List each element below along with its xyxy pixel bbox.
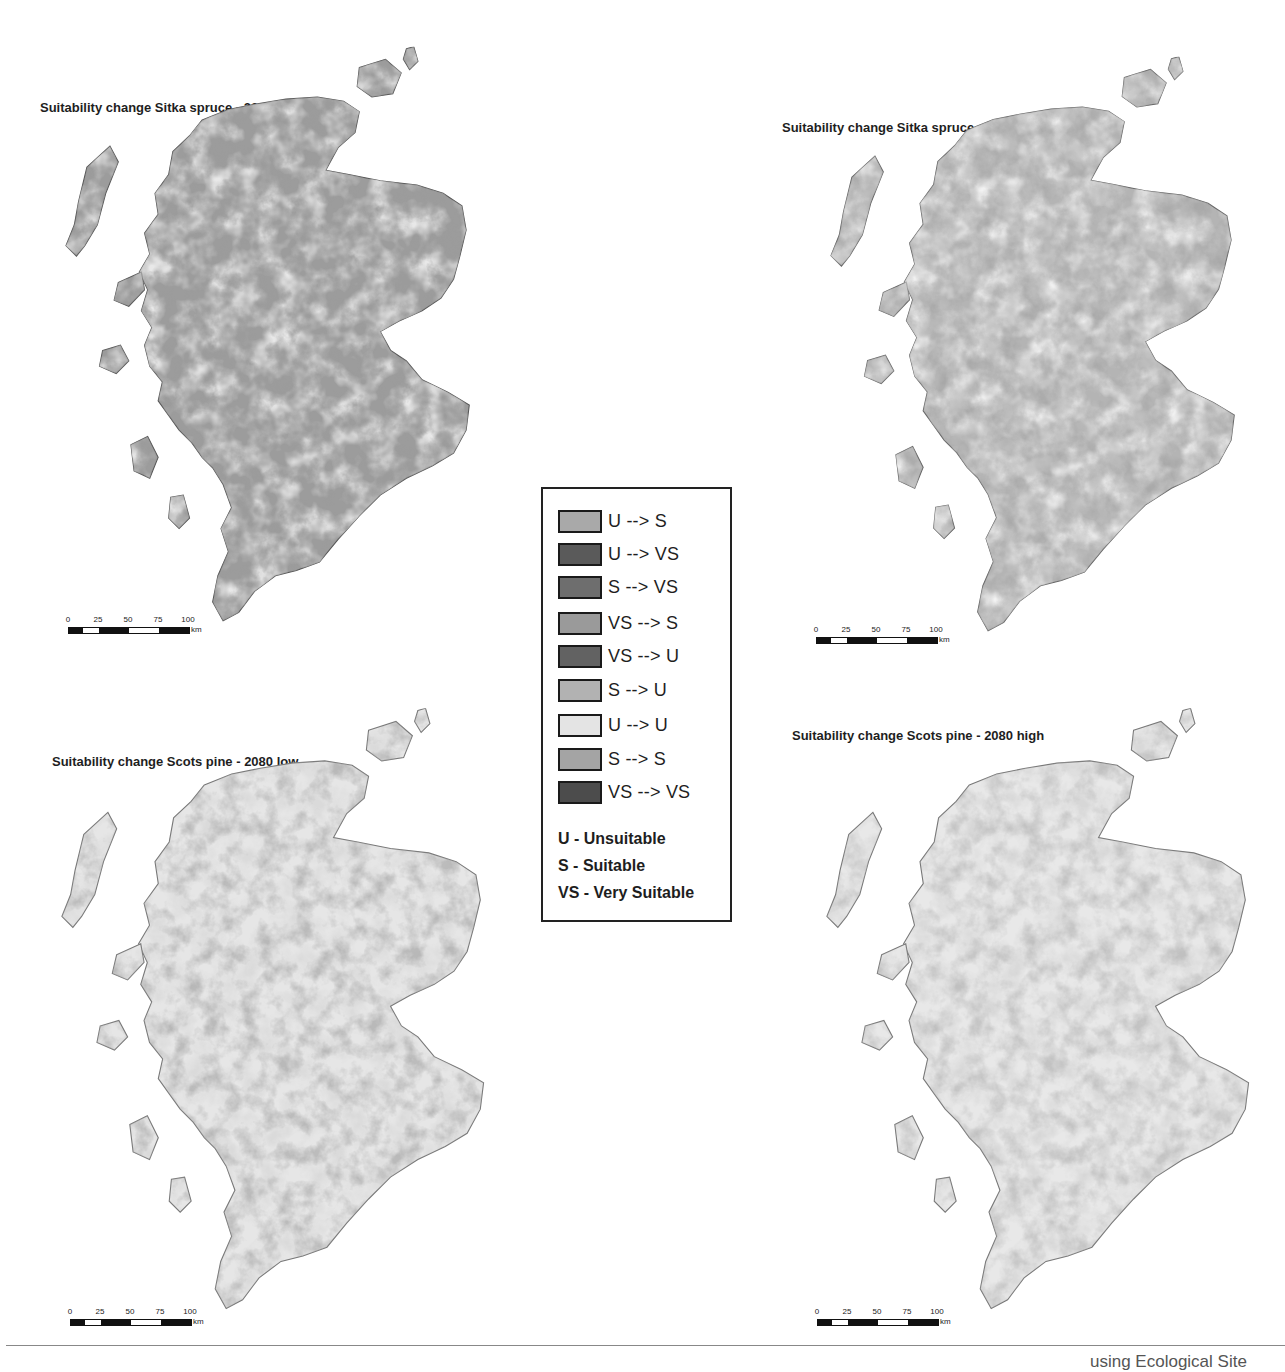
legend-swatch [558,714,602,737]
legend-label: S --> S [608,749,666,770]
legend-label: VS --> S [608,613,678,634]
scale-tick: 25 [94,615,103,624]
legend-swatch [558,748,602,771]
scotland-map [810,40,1250,660]
map-panel-scots-high: Suitability change Scots pine - 2080 hig… [770,690,1285,1340]
legend-label: U --> VS [608,544,679,565]
scotland-map [40,700,500,1330]
abbreviation-unsuitable: U - Unsuitable [558,830,666,848]
legend-label: S --> U [608,680,667,701]
legend-item: VS --> S [558,611,678,635]
map-panel-sitka-low: Suitability change Sitka spruce - 2080 l… [0,0,520,680]
legend-item: S --> U [558,678,667,702]
map-panel-scots-low: Suitability change Scots pine - 2080 low… [0,690,520,1340]
legend-item: U --> S [558,509,667,533]
map-panel-sitka-high: Suitability change Sitka spruce - 2080 h… [760,0,1285,680]
scale-tick: 50 [124,615,133,624]
scale-tick: 25 [843,1307,852,1316]
scale-tick: 75 [902,625,911,634]
scale-bar: 0 25 50 75 100 km [70,1307,210,1335]
scale-tick: 25 [96,1307,105,1316]
scale-tick: 50 [126,1307,135,1316]
caption-text: using Ecological Site [1090,1352,1247,1371]
scale-tick: 100 [929,625,942,634]
legend-item: S --> S [558,747,666,771]
legend-swatch [558,612,602,635]
legend-swatch [558,781,602,804]
legend-item: U --> VS [558,542,679,566]
legend-swatch [558,679,602,702]
scotland-map [45,40,485,640]
scale-unit: km [939,635,950,644]
scotland-map [805,700,1265,1330]
legend-item: VS --> U [558,644,679,668]
scale-unit: km [940,1317,951,1326]
scale-tick: 100 [181,615,194,624]
legend-label: U --> S [608,511,667,532]
scale-tick: 75 [156,1307,165,1316]
legend-label: VS --> U [608,646,679,667]
legend-label: VS --> VS [608,782,690,803]
scale-tick: 75 [154,615,163,624]
legend-item: S --> VS [558,575,678,599]
figure-caption: using Ecological Site [1090,1352,1247,1372]
scale-tick: 0 [68,1307,72,1316]
legend-swatch [558,576,602,599]
scale-tick: 100 [930,1307,943,1316]
legend-swatch [558,645,602,668]
legend-item: VS --> VS [558,780,690,804]
scale-tick: 75 [903,1307,912,1316]
scale-bar: 0 25 50 75 100 km [68,615,208,643]
scale-tick: 0 [815,1307,819,1316]
scale-bar: 0 25 50 75 100 km [816,625,956,653]
scale-unit: km [191,625,202,634]
scale-tick: 0 [66,615,70,624]
scale-unit: km [193,1317,204,1326]
scale-bar: 0 25 50 75 100 km [817,1307,957,1335]
legend-swatch [558,543,602,566]
legend: U --> S U --> VS S --> VS VS --> S VS --… [541,487,732,922]
scale-tick: 0 [814,625,818,634]
legend-label: U --> U [608,715,668,736]
scale-tick: 100 [183,1307,196,1316]
abbreviation-very-suitable: VS - Very Suitable [558,884,694,902]
scale-tick: 25 [842,625,851,634]
legend-item: U --> U [558,713,668,737]
scale-tick: 50 [872,625,881,634]
legend-swatch [558,510,602,533]
legend-label: S --> VS [608,577,678,598]
abbreviation-suitable: S - Suitable [558,857,645,875]
scale-tick: 50 [873,1307,882,1316]
divider [6,1345,1285,1346]
